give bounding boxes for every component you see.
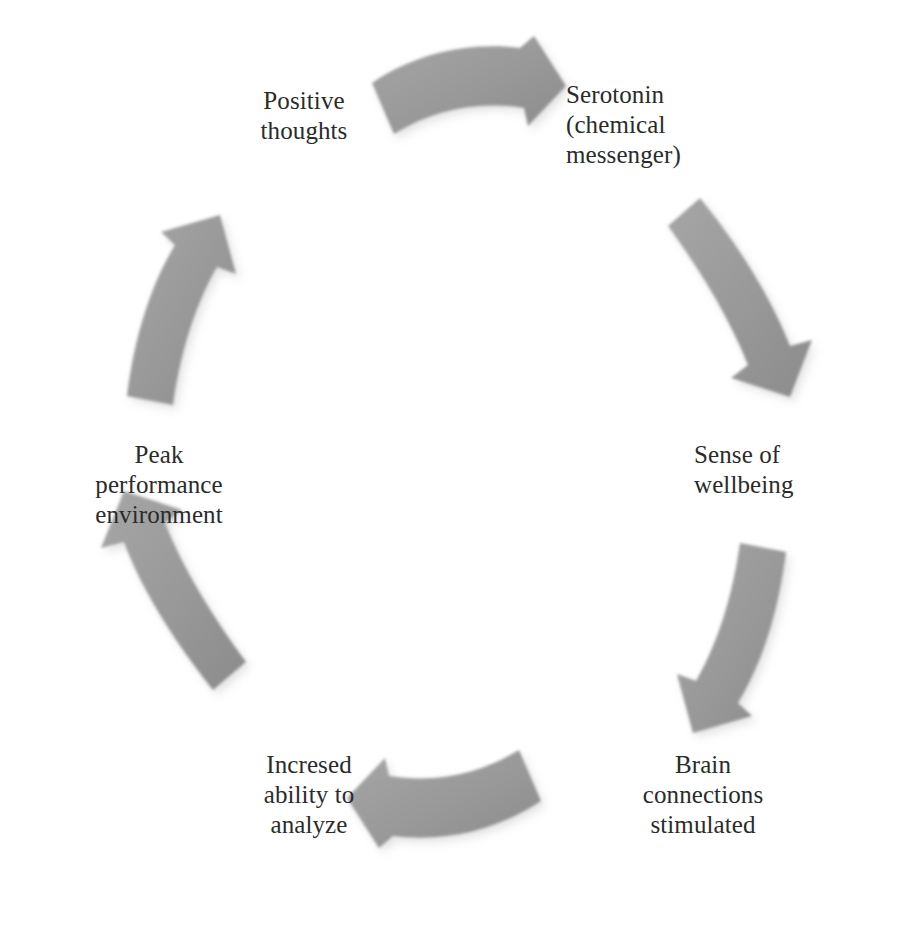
- node-label-line: environment: [54, 500, 264, 530]
- arrow-lower-right-icon: [677, 543, 786, 733]
- node-label-line: Serotonin: [566, 80, 826, 110]
- arrow-upper-right-icon: [668, 198, 812, 397]
- node-label-line: Incresed: [214, 750, 404, 780]
- cycle-diagram: Positive thoughts Serotonin (chemical me…: [0, 0, 912, 944]
- node-label-positive-thoughts: Positive thoughts: [184, 86, 424, 146]
- node-label-line: analyze: [214, 810, 404, 840]
- node-label-increased-ability-to-analyze: Incresed ability to analyze: [214, 750, 404, 840]
- node-label-line: thoughts: [184, 116, 424, 146]
- node-label-serotonin: Serotonin (chemical messenger): [566, 80, 826, 170]
- node-label-line: Brain: [588, 750, 818, 780]
- node-label-line: Positive: [184, 86, 424, 116]
- node-label-line: wellbeing: [694, 470, 904, 500]
- node-label-line: (chemical: [566, 110, 826, 140]
- node-label-peak-performance-environment: Peak performance environment: [54, 440, 264, 530]
- node-label-line: Peak: [54, 440, 264, 470]
- node-label-line: Sense of: [694, 440, 904, 470]
- arrow-upper-left-icon: [127, 215, 236, 405]
- node-label-brain-connections-stimulated: Brain connections stimulated: [588, 750, 818, 840]
- node-label-line: connections: [588, 780, 818, 810]
- node-label-sense-of-wellbeing: Sense of wellbeing: [694, 440, 904, 500]
- node-label-line: messenger): [566, 140, 826, 170]
- node-label-line: performance: [54, 470, 264, 500]
- node-label-line: stimulated: [588, 810, 818, 840]
- node-label-line: ability to: [214, 780, 404, 810]
